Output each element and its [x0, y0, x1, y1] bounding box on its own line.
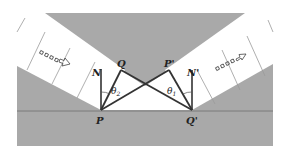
- label-Q-prime: Q': [186, 115, 198, 126]
- lower-medium: [17, 111, 273, 146]
- label-Q: Q: [117, 58, 126, 69]
- label-P-prime: P': [163, 58, 175, 69]
- label-P: P: [95, 115, 104, 126]
- label-N: N: [91, 67, 102, 78]
- refraction-diagram: N Q P P' N' Q' θ2 θ1: [0, 0, 289, 154]
- label-N-prime: N': [186, 67, 199, 78]
